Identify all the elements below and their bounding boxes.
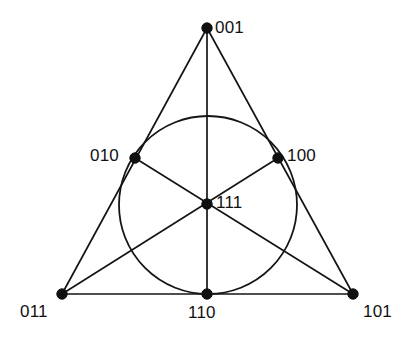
point-label-011: 011 bbox=[20, 303, 48, 320]
point-label-010: 010 bbox=[90, 147, 119, 164]
point-010 bbox=[130, 153, 140, 163]
point-label-100: 100 bbox=[287, 147, 316, 164]
fano-plane-canvas bbox=[0, 0, 414, 347]
point-label-001: 001 bbox=[215, 19, 244, 36]
point-label-101: 101 bbox=[363, 303, 392, 320]
point-011 bbox=[57, 289, 67, 299]
point-101 bbox=[348, 289, 358, 299]
point-label-110: 110 bbox=[188, 304, 216, 321]
point-001 bbox=[202, 23, 212, 33]
fano-plane-figure: 001 010 100 111 011 110 101 bbox=[0, 0, 414, 347]
point-111 bbox=[202, 199, 212, 209]
point-110 bbox=[202, 289, 212, 299]
point-100 bbox=[273, 153, 283, 163]
point-label-111: 111 bbox=[216, 194, 242, 211]
line-010-101 bbox=[135, 158, 353, 294]
